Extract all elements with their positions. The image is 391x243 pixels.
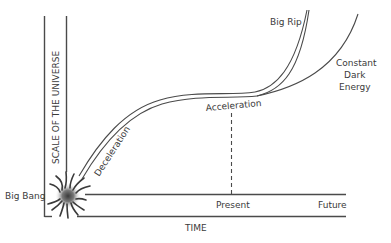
acceleration-label: Acceleration <box>205 98 262 113</box>
big-bang-label: Big Bang <box>5 191 45 201</box>
y-axis-label: SCALE OF THE UNIVERSE <box>51 51 61 164</box>
x-axis-label: TIME <box>184 223 207 233</box>
constant-dark-energy-line1: Constant <box>336 58 377 68</box>
constant-dark-energy-line2: Dark <box>344 70 366 80</box>
x-axis <box>45 195 347 217</box>
universe-expansion-diagram: SCALE OF THE UNIVERSE TIME <box>0 0 391 243</box>
constant-dark-energy-line3: Energy <box>339 82 371 92</box>
big-bang-icon <box>48 172 90 218</box>
future-label: Future <box>318 200 347 210</box>
deceleration-label: Deceleration <box>92 124 132 178</box>
big-rip-label: Big Rip <box>270 17 302 27</box>
constant-dark-energy-label: Constant Dark Energy <box>336 58 377 92</box>
present-label: Present <box>216 200 250 210</box>
